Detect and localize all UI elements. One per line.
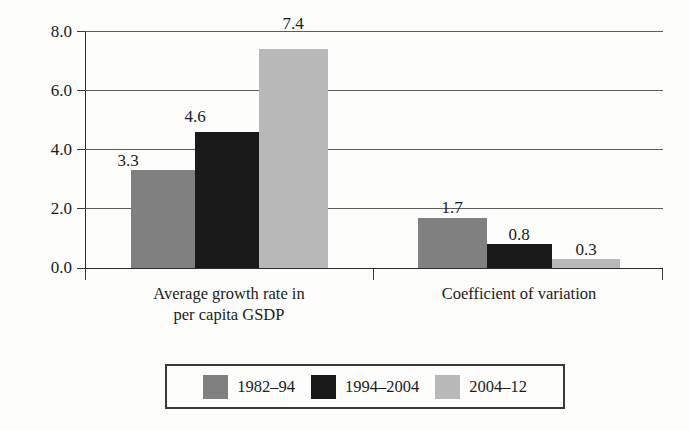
bar-value-group2-series1: 1.7	[425, 199, 479, 216]
bar-value-group2-series3: 0.3	[559, 241, 613, 258]
bar-group1-series1	[131, 170, 195, 268]
legend: 1982–94 1994–2004 2004–12	[165, 364, 565, 409]
legend-entry-2004-12: 2004–12	[435, 375, 527, 399]
legend-label-1982-94: 1982–94	[237, 378, 295, 395]
bar-group2-series2	[487, 244, 552, 268]
category-tick-left	[85, 269, 86, 280]
y-axis-tick-label-6: 6.0	[8, 82, 72, 99]
legend-swatch-icon-1994-2004	[311, 375, 336, 399]
y-axis-tick-label-2: 2.0	[8, 200, 72, 217]
legend-entry-1982-94: 1982–94	[203, 375, 311, 399]
legend-swatch-icon-2004-12	[435, 375, 460, 399]
category-label-growth-rate-line2: per capita GSDP	[100, 304, 358, 325]
category-tick-right	[662, 269, 663, 280]
bar-value-group1-series3: 7.4	[266, 15, 320, 32]
category-label-coefficient-variation: Coefficient of variation	[390, 283, 648, 304]
gridline-6	[85, 90, 663, 91]
bar-chart: 8.0 6.0 4.0 2.0 0.0 3.3 4.6 7.4 1.7 0.8 …	[0, 0, 690, 430]
bar-value-group1-series2: 4.6	[168, 108, 222, 125]
bar-value-group2-series2: 0.8	[492, 226, 546, 243]
x-axis-baseline	[85, 268, 663, 269]
gridline-4	[85, 149, 663, 150]
bar-group2-series3	[552, 259, 620, 268]
y-axis-tick-label-0: 0.0	[8, 259, 72, 276]
category-label-coefficient-variation-line1: Coefficient of variation	[390, 283, 648, 304]
category-tick-middle	[373, 269, 374, 280]
legend-label-1994-2004: 1994–2004	[345, 378, 419, 395]
y-axis-tick-label-4: 4.0	[8, 141, 72, 158]
legend-label-2004-12: 2004–12	[469, 378, 527, 395]
category-label-growth-rate-line1: Average growth rate in	[100, 283, 358, 304]
bar-value-group1-series1: 3.3	[101, 152, 155, 169]
category-label-growth-rate: Average growth rate in per capita GSDP	[100, 283, 358, 325]
bar-group2-series1	[418, 218, 487, 268]
legend-entry-1994-2004: 1994–2004	[311, 375, 435, 399]
legend-swatch-icon-1982-94	[203, 375, 228, 399]
bar-group1-series2	[195, 132, 259, 268]
gridline-8	[85, 31, 663, 32]
bar-group1-series3	[259, 49, 328, 268]
plot-area	[85, 31, 663, 268]
y-axis-tick-label-8: 8.0	[8, 23, 72, 40]
